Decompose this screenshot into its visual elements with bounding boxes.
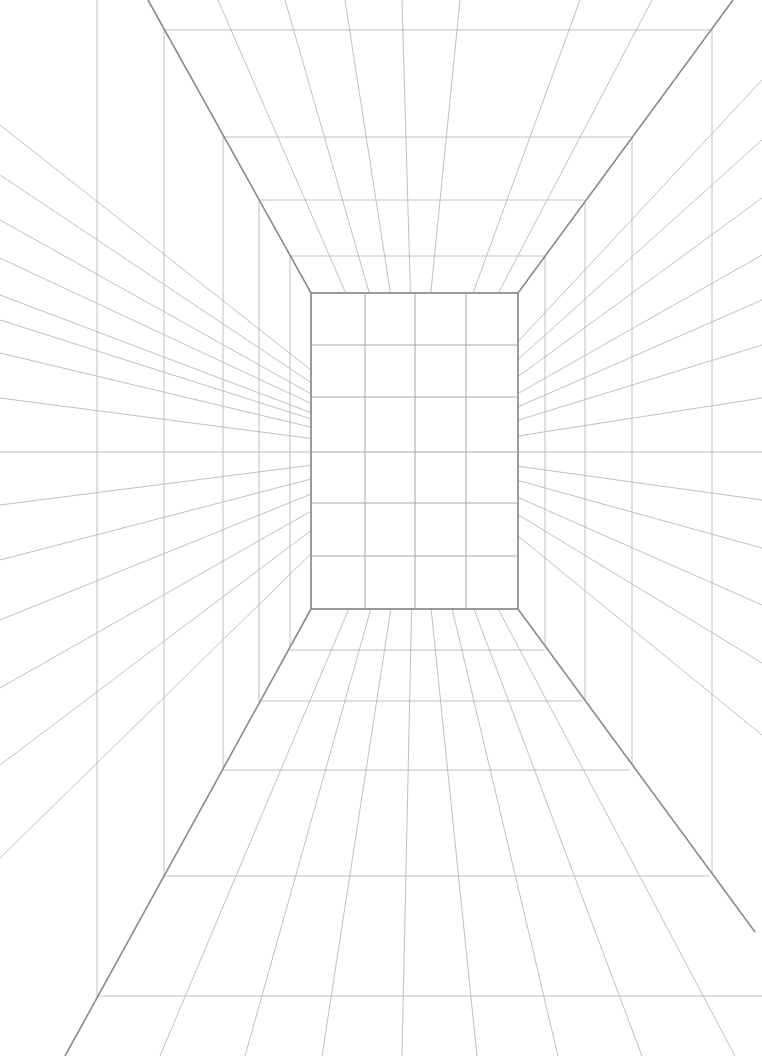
left-wall-ray-line [0,353,311,427]
ceiling-ray-line [473,0,580,293]
right-wall-ray-line [518,536,762,735]
left-wall-ray-line [0,175,311,383]
floor-grid [97,609,762,1056]
floor-ray-line [402,609,412,1056]
floor-ray-line [452,609,558,1056]
ceiling-left-edge [148,0,311,293]
right-wall-ray-line [518,480,762,548]
floor-ray-line [245,609,371,1056]
left-wall-grid [0,0,311,998]
ceiling-ray-line [498,0,652,293]
back-wall-grid [311,293,518,609]
right-wall-ray-line [518,198,762,377]
ceiling-ray-line [218,0,346,293]
right-wall-ray-line [518,255,762,394]
floor-ray-line [431,609,477,1056]
left-wall-ray-line [0,295,311,413]
right-wall-grid [518,29,762,874]
left-wall-ray-line [0,494,311,620]
right-wall-ray-line [518,140,762,359]
left-wall-ray-line [0,479,311,560]
left-wall-ray-line [0,465,311,505]
left-wall-ray-line [0,258,311,403]
left-wall-ray-line [0,125,311,370]
left-wall-ray-line [0,220,311,394]
floor-right-edge [518,609,755,932]
right-wall-ray-line [518,300,762,407]
right-wall-ray-line [518,466,762,500]
right-wall-ray-line [518,345,762,420]
floor-ray-line [322,609,391,1056]
ceiling-ray-line [345,0,390,293]
perspective-grid [0,0,762,1056]
right-wall-ray-line [518,398,762,436]
ceiling-ray-line [285,0,369,293]
left-wall-ray-line [0,530,311,765]
ceiling-grid [165,0,712,293]
ceiling-ray-line [431,0,460,293]
ceiling-ray-line [402,0,410,293]
right-wall-ray-line [518,80,762,342]
ceiling-right-edge [518,0,733,293]
